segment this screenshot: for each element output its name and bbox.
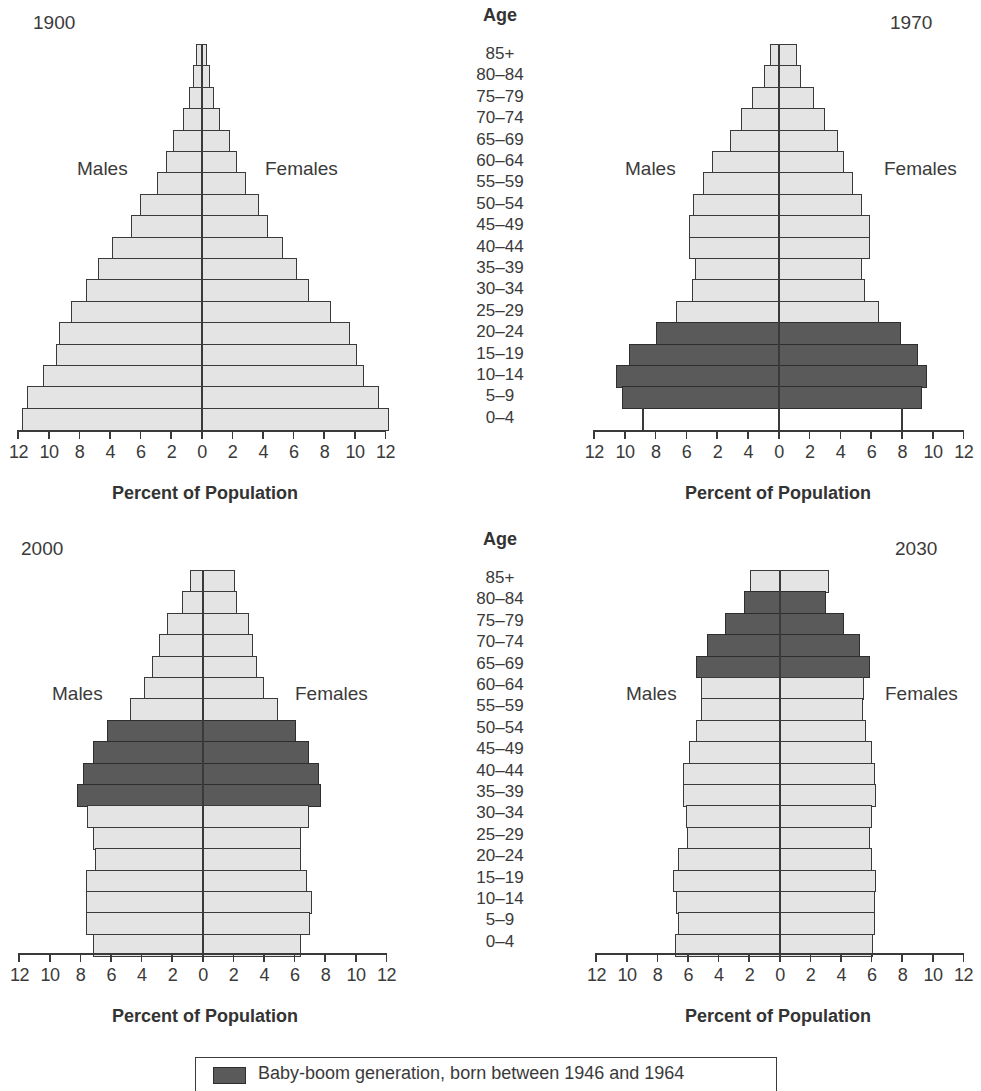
bar-female	[201, 215, 268, 238]
bar-male	[167, 613, 203, 636]
x-tick-label: 2	[156, 442, 186, 463]
bar-female	[202, 891, 312, 914]
age-label: 50–54	[440, 193, 560, 215]
x-tick-label: 4	[826, 965, 856, 986]
bar-male	[683, 763, 780, 786]
legend: Baby-boom generation, born between 1946 …	[195, 1057, 777, 1091]
bar-female	[779, 720, 866, 743]
bar-male	[152, 656, 203, 679]
x-tick	[748, 953, 750, 962]
bar-male	[144, 677, 203, 700]
x-tick-label: 8	[309, 442, 339, 463]
x-tick-label: 0	[764, 442, 794, 463]
bar-male	[86, 891, 203, 914]
bar-female	[779, 870, 876, 893]
bar-male	[87, 805, 203, 828]
age-label: 5–9	[440, 909, 560, 931]
bar-female	[779, 784, 876, 807]
age-label: 45–49	[440, 738, 560, 760]
bar-male	[86, 870, 203, 893]
x-tick-label: 10	[340, 442, 370, 463]
age-label: 40–44	[440, 760, 560, 782]
age-label: 30–34	[440, 802, 560, 824]
bar-female	[201, 87, 214, 110]
age-label: 40–44	[440, 236, 560, 258]
x-tick-label: 8	[310, 965, 340, 986]
bar-male	[730, 130, 779, 153]
age-label: 60–64	[440, 150, 560, 172]
bar-female	[201, 408, 389, 431]
bar-female	[202, 570, 235, 593]
x-tick	[233, 953, 235, 962]
bar-female	[778, 44, 797, 67]
age-label: 20–24	[440, 845, 560, 867]
center-axis-line	[201, 44, 203, 430]
x-tick	[779, 953, 781, 962]
bar-female	[778, 65, 801, 88]
x-tick-label: 6	[96, 965, 126, 986]
x-tick-label: 2	[702, 442, 732, 463]
x-tick-label: 0	[188, 965, 218, 986]
x-tick	[80, 953, 82, 962]
year-label: 2000	[21, 538, 63, 560]
x-tick-label: 6	[673, 965, 703, 986]
x-tick	[141, 953, 143, 962]
x-tick	[263, 953, 265, 962]
bar-female	[779, 656, 870, 679]
x-tick-label: 12	[372, 965, 402, 986]
bar-male	[725, 613, 780, 636]
bar-female	[202, 741, 309, 764]
x-tick-label: 2	[795, 442, 825, 463]
x-tick-label: 8	[887, 965, 917, 986]
age-label: 70–74	[440, 107, 560, 129]
bar-female	[202, 848, 301, 871]
bar-female	[201, 151, 237, 174]
bar-female	[779, 634, 860, 657]
bar-male	[43, 365, 202, 388]
x-tick	[809, 430, 811, 439]
x-tick	[871, 953, 873, 962]
age-label: 50–54	[440, 717, 560, 739]
x-tick-label: 10	[610, 442, 640, 463]
bar-female	[778, 215, 870, 238]
bar-female	[778, 194, 862, 217]
bar-male	[683, 784, 780, 807]
x-tick-label: 2	[218, 442, 248, 463]
bar-female	[778, 151, 844, 174]
center-axis-line	[202, 570, 204, 953]
bar-male	[689, 215, 779, 238]
bar-male	[687, 827, 780, 850]
bar-female	[779, 591, 826, 614]
bar-male	[59, 322, 202, 345]
bar-male	[182, 591, 203, 614]
x-tick	[657, 953, 659, 962]
bar-male	[622, 386, 779, 409]
x-tick-label: 8	[887, 442, 917, 463]
center-axis-line	[779, 570, 781, 953]
bar-female	[778, 386, 922, 409]
x-tick-label: 6	[280, 965, 310, 986]
bar-female	[202, 720, 296, 743]
bar-male	[140, 194, 202, 217]
x-tick-label: 10	[918, 965, 948, 986]
bar-male	[696, 656, 780, 679]
age-label: 20–24	[440, 321, 560, 343]
x-tick-label: 2	[219, 965, 249, 986]
x-tick	[901, 430, 903, 439]
bar-female	[778, 130, 838, 153]
x-tick-label: 12	[949, 442, 979, 463]
age-label: 25–29	[440, 300, 560, 322]
age-label: 55–59	[440, 695, 560, 717]
bar-female	[201, 279, 309, 302]
x-tick	[49, 953, 51, 962]
bar-stub-female	[901, 408, 903, 430]
bar-male	[93, 741, 203, 764]
baby-boom-swatch-icon	[213, 1067, 246, 1084]
x-tick	[624, 430, 626, 439]
bar-female	[201, 237, 283, 260]
bar-male	[107, 720, 203, 743]
bar-female	[201, 172, 246, 195]
bar-female	[201, 130, 230, 153]
x-tick	[48, 430, 50, 439]
age-header-top: Age	[455, 5, 545, 26]
